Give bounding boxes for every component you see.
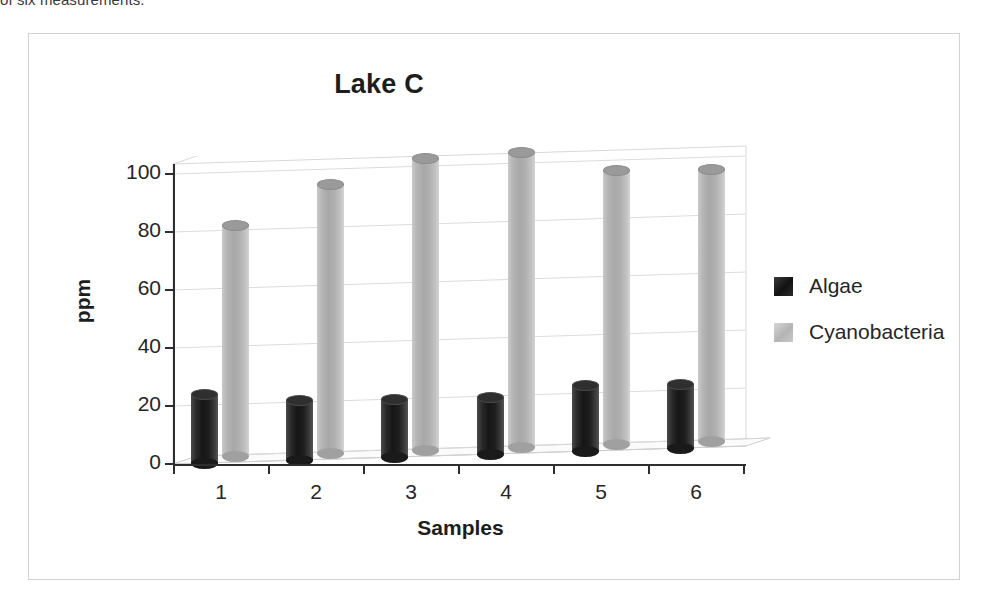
y-tick-label-20: 20 [105, 392, 161, 416]
bar-cap-top [381, 394, 408, 405]
bar-body [572, 385, 599, 452]
x-tick-label-3: 3 [381, 480, 441, 504]
x-tick-6 [743, 464, 745, 474]
legend-swatch-algae-icon [774, 277, 793, 296]
bar-body [508, 152, 535, 448]
bar-cap-bottom [572, 446, 599, 457]
bar-body [381, 399, 408, 458]
bar-cap-bottom [222, 451, 249, 462]
bar-algae-sample-3 [381, 399, 408, 458]
y-tick-60 [165, 289, 174, 291]
y-tick-20 [165, 405, 174, 407]
bar-algae-sample-2 [286, 400, 313, 461]
bar-body [286, 400, 313, 461]
bar-cap-top [603, 165, 630, 176]
bar-cyanobacteria-sample-4 [508, 152, 535, 448]
bar-cap-top [667, 379, 694, 390]
x-tick-label-2: 2 [286, 480, 346, 504]
bar-body [412, 158, 439, 451]
y-tick-label-80: 80 [105, 218, 161, 242]
legend-item-algae: Algae [774, 274, 964, 298]
y-axis-title: ppm [71, 241, 95, 361]
bar-algae-sample-4 [477, 397, 504, 455]
x-tick-label-5: 5 [571, 480, 631, 504]
bar-body [603, 170, 630, 446]
bar-cap-bottom [667, 443, 694, 454]
chart-figure-frame: Lake C [28, 33, 960, 580]
x-tick-label-1: 1 [191, 480, 251, 504]
bar-body [222, 225, 249, 457]
bar-algae-sample-5 [572, 385, 599, 452]
y-tick-label-0: 0 [105, 450, 161, 474]
y-tick-80 [165, 231, 174, 233]
bar-algae-sample-6 [667, 384, 694, 449]
x-tick-1 [268, 464, 270, 474]
x-tick-label-4: 4 [476, 480, 536, 504]
y-tick-label-40: 40 [105, 334, 161, 358]
page-caption: of six measurements. [0, 0, 420, 11]
x-tick-5 [648, 464, 650, 474]
bar-cyanobacteria-sample-5 [603, 170, 630, 446]
bar-body [477, 397, 504, 455]
bar-algae-sample-1 [191, 394, 218, 464]
bar-body [191, 394, 218, 464]
bar-cap-bottom [412, 445, 439, 456]
x-tick-3 [458, 464, 460, 474]
bar-cap-bottom [698, 436, 725, 447]
legend-label-algae: Algae [809, 274, 863, 298]
bar-body [698, 169, 725, 442]
legend-label-cyanobacteria: Cyanobacteria [809, 320, 944, 344]
x-axis-title: Samples [173, 516, 748, 540]
bar-body [317, 184, 344, 454]
bar-cap-top [508, 147, 535, 158]
legend-item-cyanobacteria: Cyanobacteria [774, 320, 964, 344]
bar-cap-top [477, 392, 504, 403]
y-tick-40 [165, 347, 174, 349]
bar-cyanobacteria-sample-1 [222, 225, 249, 457]
bar-cap-bottom [317, 448, 344, 459]
x-tick-label-6: 6 [666, 480, 726, 504]
bar-body [667, 384, 694, 449]
y-tick-label-60: 60 [105, 276, 161, 300]
bar-cyanobacteria-sample-6 [698, 169, 725, 442]
bar-cap-bottom [508, 442, 535, 453]
bar-cyanobacteria-sample-2 [317, 184, 344, 454]
bar-cyanobacteria-sample-3 [412, 158, 439, 451]
y-tick-100 [165, 173, 174, 175]
y-axis-spine [173, 164, 175, 465]
x-tick-start [173, 464, 175, 474]
bar-cap-top [222, 220, 249, 231]
x-tick-4 [553, 464, 555, 474]
x-tick-2 [363, 464, 365, 474]
caption-text: of six measurements. [0, 0, 420, 8]
bar-cap-bottom [603, 439, 630, 450]
legend-swatch-cyanobacteria-icon [774, 323, 793, 342]
y-tick-label-100: 100 [105, 160, 161, 184]
bar-cap-bottom [381, 452, 408, 463]
chart-legend: Algae Cyanobacteria [774, 274, 964, 366]
bar-cap-bottom [477, 449, 504, 460]
